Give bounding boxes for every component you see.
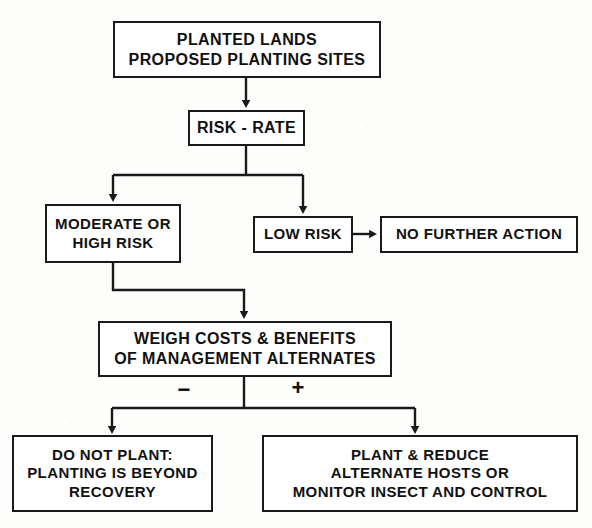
node-planted-lands[interactable]: PLANTED LANDS PROPOSED PLANTING SITES [113,21,381,78]
node-moderate-high-risk[interactable]: MODERATE OR HIGH RISK [45,204,181,263]
branch-label-negative: − [172,379,196,401]
node-weigh-costs[interactable]: WEIGH COSTS & BENEFITS OF MANAGEMENT ALT… [98,321,392,377]
node-do-not-plant[interactable]: DO NOT PLANT: PLANTING IS BEYOND RECOVER… [12,435,213,512]
node-no-further-action[interactable]: NO FURTHER ACTION [380,216,578,253]
node-low-risk[interactable]: LOW RISK [253,216,353,253]
branch-label-positive: + [286,377,310,399]
node-risk-rate[interactable]: RISK - RATE [188,110,305,146]
edge-moderate-to-weigh [113,262,244,315]
flowchart-canvas: PLANTED LANDS PROPOSED PLANTING SITES RI… [0,0,592,528]
node-plant-and-reduce[interactable]: PLANT & REDUCE ALTERNATE HOSTS OR MONITO… [262,435,578,512]
